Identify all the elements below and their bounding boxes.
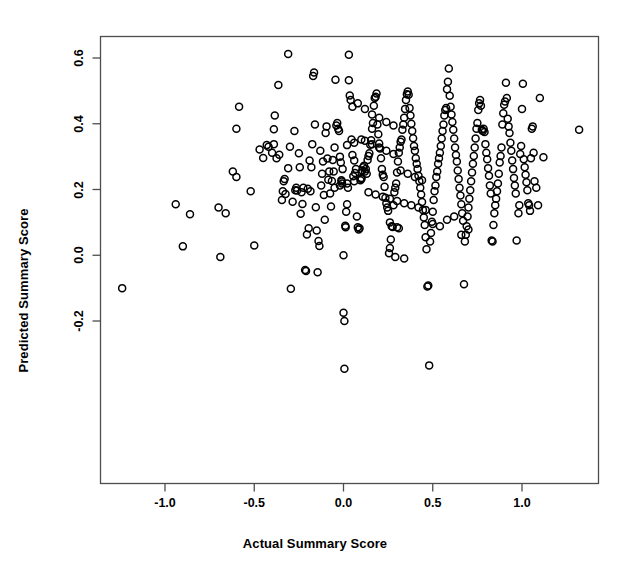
data-point bbox=[444, 216, 451, 223]
data-point bbox=[486, 182, 493, 189]
data-point bbox=[215, 204, 222, 211]
data-point bbox=[408, 120, 415, 127]
data-point bbox=[535, 202, 542, 209]
data-point bbox=[430, 197, 437, 204]
data-point bbox=[519, 80, 526, 87]
data-point bbox=[222, 210, 229, 217]
data-point bbox=[289, 198, 296, 205]
data-point bbox=[332, 76, 339, 83]
data-point bbox=[471, 144, 478, 151]
data-point bbox=[291, 127, 298, 134]
data-point bbox=[449, 119, 456, 126]
data-point bbox=[458, 231, 465, 238]
data-point bbox=[536, 95, 543, 102]
data-point bbox=[469, 169, 476, 176]
data-point bbox=[427, 238, 434, 245]
data-point bbox=[464, 213, 471, 220]
data-point bbox=[317, 147, 324, 154]
data-point bbox=[256, 146, 263, 153]
data-point bbox=[502, 79, 509, 86]
y-axis-tick-label: 0.6 bbox=[72, 49, 86, 66]
data-point bbox=[345, 77, 352, 84]
data-point bbox=[516, 202, 523, 209]
data-point bbox=[345, 51, 352, 58]
y-axis-tick-label: -0.2 bbox=[72, 310, 86, 332]
data-point bbox=[445, 65, 452, 72]
data-point bbox=[468, 178, 475, 185]
data-point bbox=[383, 119, 390, 126]
data-point bbox=[383, 147, 390, 154]
data-point bbox=[482, 141, 489, 148]
data-point bbox=[393, 180, 400, 187]
data-point bbox=[260, 154, 267, 161]
data-point bbox=[313, 227, 320, 234]
data-point bbox=[312, 204, 319, 211]
data-point bbox=[507, 139, 514, 146]
data-point bbox=[119, 285, 126, 292]
data-point bbox=[311, 121, 318, 128]
data-point bbox=[491, 210, 498, 217]
data-point bbox=[370, 102, 377, 109]
data-point bbox=[387, 236, 394, 243]
data-point bbox=[458, 201, 465, 208]
data-point bbox=[318, 182, 325, 189]
data-point bbox=[287, 285, 294, 292]
data-point bbox=[457, 192, 464, 199]
data-point bbox=[504, 115, 511, 122]
data-point bbox=[401, 255, 408, 262]
data-point bbox=[308, 164, 315, 171]
data-point bbox=[331, 144, 338, 151]
data-point bbox=[271, 112, 278, 119]
x-axis-tick-label: -0.5 bbox=[243, 496, 265, 510]
data-point bbox=[375, 131, 382, 138]
data-point bbox=[299, 200, 306, 207]
data-point bbox=[233, 125, 240, 132]
data-point bbox=[450, 126, 457, 133]
data-point bbox=[472, 135, 479, 142]
data-point bbox=[427, 229, 434, 236]
data-point bbox=[328, 203, 335, 210]
data-point bbox=[521, 164, 528, 171]
data-point bbox=[344, 142, 351, 149]
data-point bbox=[495, 170, 502, 177]
data-point bbox=[510, 166, 517, 173]
data-point bbox=[354, 100, 361, 107]
data-point bbox=[465, 204, 472, 211]
data-point bbox=[309, 141, 316, 148]
data-point bbox=[520, 156, 527, 163]
y-axis-tick-label: 0.4 bbox=[72, 115, 86, 132]
data-point bbox=[438, 135, 445, 142]
data-point bbox=[420, 214, 427, 221]
x-axis-tick-label: 1.0 bbox=[513, 496, 530, 510]
data-point bbox=[512, 190, 519, 197]
data-point bbox=[390, 122, 397, 129]
data-point bbox=[522, 171, 529, 178]
x-axis-ticks bbox=[165, 484, 522, 492]
data-point bbox=[467, 187, 474, 194]
data-point bbox=[285, 165, 292, 172]
data-point bbox=[381, 183, 388, 190]
data-point bbox=[448, 111, 455, 118]
y-axis-ticks bbox=[93, 58, 101, 321]
data-point bbox=[410, 135, 417, 142]
plot-canvas bbox=[0, 0, 630, 581]
data-point bbox=[533, 184, 540, 191]
data-point bbox=[494, 180, 501, 187]
data-point bbox=[447, 103, 454, 110]
y-axis-title: Predicted Summary Score bbox=[16, 0, 40, 581]
data-point bbox=[518, 143, 525, 150]
data-point bbox=[186, 211, 193, 218]
data-point bbox=[353, 213, 360, 220]
data-point bbox=[452, 144, 459, 151]
data-point bbox=[498, 144, 505, 151]
data-point bbox=[392, 253, 399, 260]
data-point bbox=[365, 189, 372, 196]
data-point bbox=[456, 184, 463, 191]
data-point bbox=[444, 78, 451, 85]
data-point bbox=[341, 318, 348, 325]
data-point bbox=[455, 175, 462, 182]
data-points-layer bbox=[119, 51, 583, 373]
data-point bbox=[285, 51, 292, 58]
data-point bbox=[377, 155, 384, 162]
data-point bbox=[540, 154, 547, 161]
